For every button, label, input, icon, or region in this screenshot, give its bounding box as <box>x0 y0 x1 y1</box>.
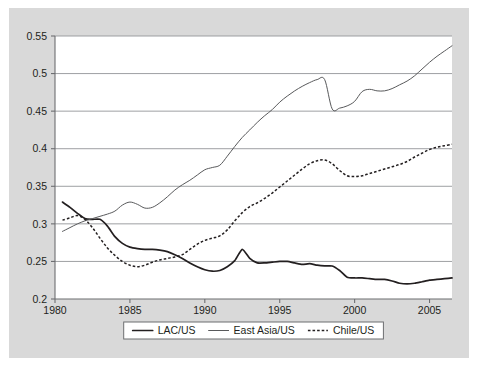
x-axis-tick-label: 2000 <box>343 304 367 316</box>
y-axis-tick-label: 0.35 <box>27 180 48 192</box>
x-axis-tick-labels: 198019851990199520002005 <box>43 304 441 316</box>
x-axis-tick-label: 1980 <box>43 304 67 316</box>
y-axis-tick-label: 0.45 <box>27 105 48 117</box>
y-axis-tick-label: 0.5 <box>32 67 47 79</box>
plot-area-background <box>55 36 452 299</box>
y-axis-tick-label: 0.2 <box>32 293 47 305</box>
legend-label-lac-us: LAC/US <box>158 324 196 336</box>
chart-legend: LAC/USEast Asia/USChile/US <box>124 322 384 339</box>
x-axis-tick-label: 1985 <box>118 304 142 316</box>
y-axis-tick-label: 0.4 <box>32 142 47 154</box>
x-axis-tick-label: 2005 <box>418 304 442 316</box>
legend-label-east-asia-us: East Asia/US <box>234 324 295 336</box>
y-axis-tick-labels: 0.20.250.30.350.40.450.50.55 <box>27 30 48 305</box>
line-chart: 0.20.250.30.350.40.450.50.55 19801985199… <box>0 0 478 366</box>
chart-figure: 0.20.250.30.350.40.450.50.55 19801985199… <box>0 0 478 366</box>
y-axis-tick-label: 0.3 <box>32 218 47 230</box>
y-axis-tick-label: 0.55 <box>27 30 48 42</box>
x-axis-tick-label: 1995 <box>268 304 292 316</box>
x-axis-tick-label: 1990 <box>193 304 217 316</box>
legend-label-chile-us: Chile/US <box>333 324 374 336</box>
y-axis-tick-label: 0.25 <box>27 255 48 267</box>
